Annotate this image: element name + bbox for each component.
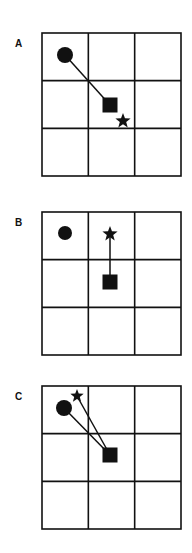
star-marker [70,389,83,402]
star-marker [115,113,130,127]
square-marker [103,98,118,113]
grid-3x3 [0,32,192,178]
square-marker [103,275,118,290]
grid-3x3 [0,385,192,531]
panel-b: B [0,211,192,357]
circle-marker [56,400,72,416]
circle-marker [57,47,73,63]
grid-3x3 [0,211,192,357]
panel-a: A [0,32,192,178]
panel-c: C [0,385,192,531]
square-marker [103,448,118,463]
circle-marker [58,226,72,240]
